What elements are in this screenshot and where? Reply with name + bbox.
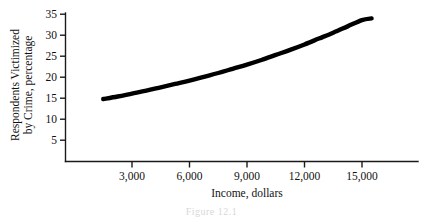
y-tick-label-5: 5 bbox=[51, 134, 57, 146]
y-tick-label-35: 35 bbox=[46, 8, 58, 20]
data-series-line bbox=[103, 18, 371, 99]
y-tick-label-30: 30 bbox=[46, 29, 58, 41]
x-axis-title: Income, dollars bbox=[211, 187, 283, 200]
y-tick-label-25: 25 bbox=[46, 50, 58, 62]
chart-plot: Respondents Victimized by Crime, percent… bbox=[0, 0, 423, 218]
x-tick-label-6000: 6,000 bbox=[177, 170, 203, 183]
y-tick-label-20: 20 bbox=[46, 71, 58, 83]
figure-container: Respondents Victimized by Crime, percent… bbox=[0, 0, 423, 218]
x-tick-label-9000: 9,000 bbox=[234, 170, 260, 183]
y-axis-title-line2: by Crime, percentage bbox=[22, 36, 35, 135]
y-axis-title: Respondents Victimized by Crime, percent… bbox=[9, 29, 35, 141]
x-tick-label-12000: 12,000 bbox=[289, 170, 321, 183]
y-tick-label-15: 15 bbox=[46, 92, 58, 104]
y-axis-title-line1: Respondents Victimized bbox=[9, 29, 22, 141]
figure-caption: Figure 12.1 bbox=[0, 206, 423, 217]
x-tick-label-3000: 3,000 bbox=[119, 170, 145, 183]
x-tick-label-15000: 15,000 bbox=[346, 170, 378, 183]
y-tick-label-10: 10 bbox=[46, 113, 58, 125]
